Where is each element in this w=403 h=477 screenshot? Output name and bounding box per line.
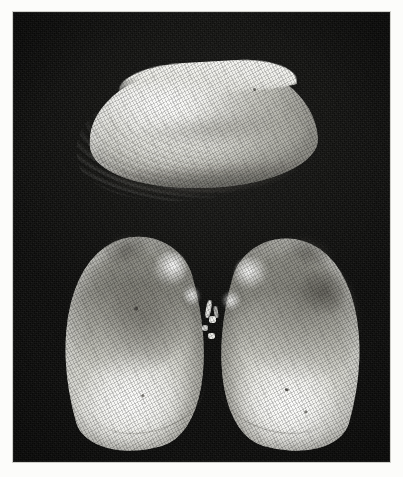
page-canvas <box>0 0 403 477</box>
hinge-glint <box>202 325 208 331</box>
hinge-contact-highlights <box>197 300 225 346</box>
hinge-glint <box>208 333 215 339</box>
photographic-plate <box>13 12 390 462</box>
hinge-glint <box>209 316 216 323</box>
shell-specimen-top <box>86 58 321 195</box>
